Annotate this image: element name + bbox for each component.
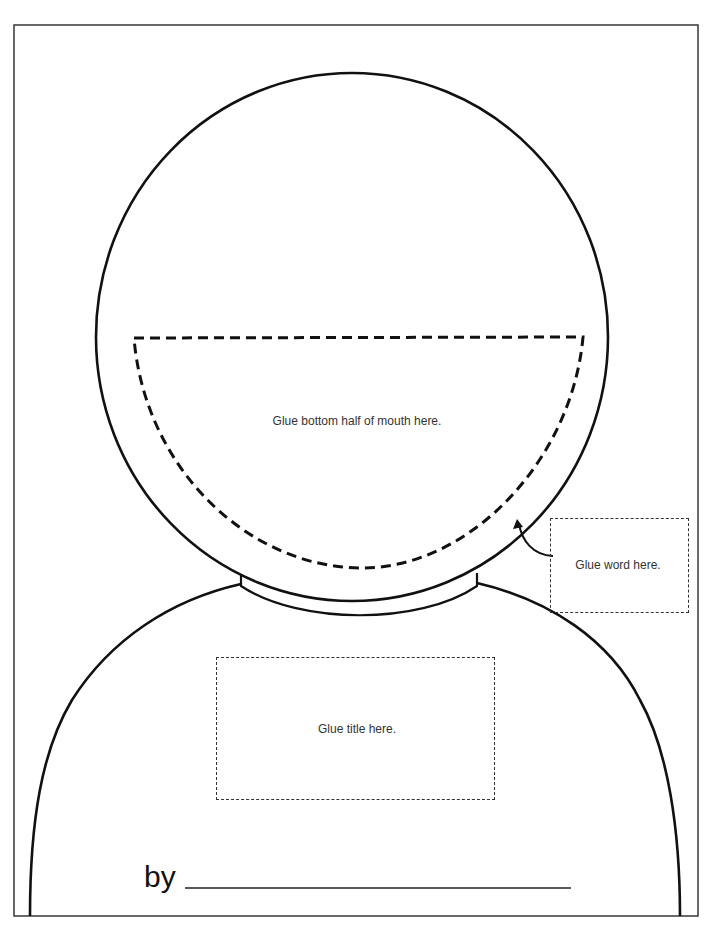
word-glue-label: Glue word here. xyxy=(575,558,660,572)
byline-label: by xyxy=(144,862,176,892)
mouth-glue-label: Glue bottom half of mouth here. xyxy=(273,414,442,428)
title-glue-label: Glue title here. xyxy=(318,722,396,736)
author-name-field[interactable] xyxy=(185,860,571,886)
